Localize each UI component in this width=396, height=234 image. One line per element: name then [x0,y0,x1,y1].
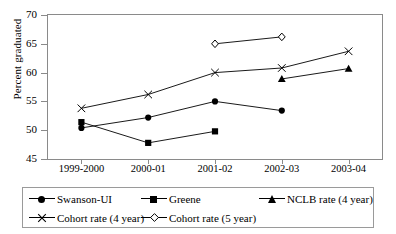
x-tick-label-2003-04: 2003-04 [309,163,389,175]
series-swanson-ui [78,98,285,131]
series-canvas [48,15,382,159]
data-point-marker [78,125,84,131]
chart-figure: Percent graduated 455055606570 1999-2000… [0,0,396,234]
data-point-marker [212,98,218,104]
series-nclb-rate-4-year [278,65,353,82]
data-point-marker [145,114,151,120]
data-point-marker [345,47,353,55]
data-point-marker [78,105,86,113]
legend-label: Cohort rate (4 year) [55,212,144,224]
legend-row-2: Cohort rate (4 year)Cohort rate (5 year) [23,208,373,227]
y-tick-label-65: 65 [3,38,37,49]
legend-marker-open-diamond [141,212,167,224]
legend-label: Greene [167,193,201,205]
data-point-marker [278,33,285,41]
data-point-marker [144,91,152,99]
legend-marker-cross-x [29,212,55,224]
y-tick-label-45: 45 [3,153,37,164]
legend-label: Cohort rate (5 year) [167,212,256,224]
y-tick-label-55: 55 [3,95,37,106]
data-point-marker [78,119,84,125]
chart-legend: Swanson-UIGreeneNCLB rate (4 year) Cohor… [22,187,374,228]
y-tick-label-60: 60 [3,67,37,78]
legend-marker-filled-square [141,193,167,205]
data-point-marker [345,65,353,72]
data-point-marker [212,128,218,134]
series-greene [78,119,218,146]
legend-item-nclb-rate-4-year[interactable]: NCLB rate (4 year) [259,189,373,208]
series-cohort-rate-5-year [212,33,286,48]
legend-row-1: Swanson-UIGreeneNCLB rate (4 year) [23,189,373,208]
y-tick-label-50: 50 [3,124,37,135]
legend-item-greene[interactable]: Greene [141,189,201,208]
legend-label: NCLB rate (4 year) [285,193,373,205]
legend-marker-filled-circle [29,193,55,205]
legend-item-cohort-rate-4-year[interactable]: Cohort rate (4 year) [29,208,144,227]
legend-item-cohort-rate-5-year[interactable]: Cohort rate (5 year) [141,208,256,227]
data-point-marker [279,108,285,114]
y-tick-label-70: 70 [3,9,37,20]
data-point-marker [145,140,151,146]
plot-area [47,14,383,160]
legend-label: Swanson-UI [55,193,112,205]
data-point-marker [212,40,219,48]
legend-marker-filled-triangle [259,193,285,205]
legend-item-swanson-ui[interactable]: Swanson-UI [29,189,112,208]
